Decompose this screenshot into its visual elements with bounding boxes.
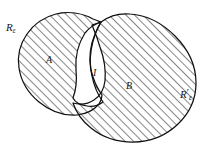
label-region-right-subscript: ε [189, 94, 192, 102]
label-region-left-subscript: ε [13, 27, 16, 35]
label-region-left-base: R [6, 21, 13, 33]
label-intersection: I [93, 68, 96, 78]
label-region-right: R′ε [180, 88, 192, 102]
label-region-right-base: R [180, 88, 187, 100]
region-diagram-svg [0, 0, 208, 154]
label-region-left: Rε [6, 22, 16, 35]
figure-canvas: Rε R′ε A B I [0, 0, 208, 154]
label-set-a: A [46, 55, 52, 65]
label-set-b: B [126, 81, 132, 91]
